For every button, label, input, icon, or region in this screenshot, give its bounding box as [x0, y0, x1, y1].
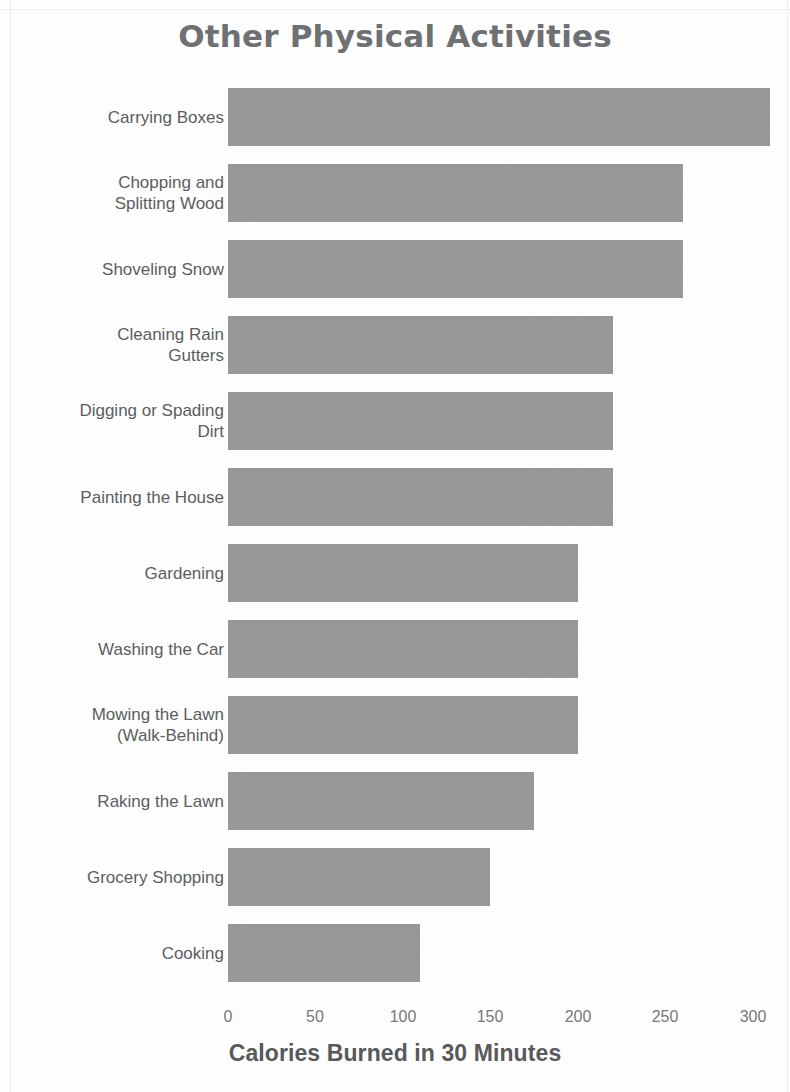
bar-category-label: Carrying Boxes — [14, 107, 224, 128]
bar — [228, 240, 683, 298]
bar-row: Mowing the Lawn (Walk-Behind) — [0, 696, 790, 754]
bar-row: Carrying Boxes — [0, 88, 790, 146]
bar — [228, 924, 420, 982]
bar — [228, 772, 534, 830]
x-axis-tick-label: 200 — [548, 1008, 608, 1026]
bar-row: Raking the Lawn — [0, 772, 790, 830]
bar — [228, 620, 578, 678]
bar-row: Digging or Spading Dirt — [0, 392, 790, 450]
bar-category-label: Gardening — [14, 563, 224, 584]
bar-category-label: Raking the Lawn — [14, 791, 224, 812]
x-axis-tick-label: 250 — [635, 1008, 695, 1026]
bar — [228, 544, 578, 602]
bar — [228, 468, 613, 526]
bar-row: Cleaning Rain Gutters — [0, 316, 790, 374]
bar — [228, 848, 490, 906]
bar-row: Grocery Shopping — [0, 848, 790, 906]
bar — [228, 696, 578, 754]
x-axis-tick-label: 150 — [460, 1008, 520, 1026]
bar-category-label: Shoveling Snow — [14, 259, 224, 280]
bar-category-label: Painting the House — [14, 487, 224, 508]
bar-category-label: Digging or Spading Dirt — [14, 400, 224, 442]
bar — [228, 88, 770, 146]
bar-row: Washing the Car — [0, 620, 790, 678]
bar-category-label: Mowing the Lawn (Walk-Behind) — [14, 704, 224, 746]
bar — [228, 316, 613, 374]
plot-area: Carrying BoxesChopping and Splitting Woo… — [0, 0, 790, 1092]
bar-category-label: Washing the Car — [14, 639, 224, 660]
x-axis-tick-label: 50 — [285, 1008, 345, 1026]
bar — [228, 164, 683, 222]
bar-category-label: Cooking — [14, 943, 224, 964]
x-axis-tick-label: 300 — [723, 1008, 783, 1026]
x-axis-tick-labels: 050100150200250300 — [0, 1008, 790, 1032]
bar-category-label: Chopping and Splitting Wood — [14, 172, 224, 214]
x-axis-tick-label: 100 — [373, 1008, 433, 1026]
chart-figure: Other Physical Activities Carrying Boxes… — [0, 0, 790, 1092]
bar-row: Chopping and Splitting Wood — [0, 164, 790, 222]
bar-category-label: Cleaning Rain Gutters — [14, 324, 224, 366]
bar-category-label: Grocery Shopping — [14, 867, 224, 888]
x-axis-label: Calories Burned in 30 Minutes — [0, 1040, 790, 1067]
bar-row: Shoveling Snow — [0, 240, 790, 298]
x-axis-tick-label: 0 — [198, 1008, 258, 1026]
bar-row: Gardening — [0, 544, 790, 602]
bar-row: Cooking — [0, 924, 790, 982]
bar-row: Painting the House — [0, 468, 790, 526]
bar — [228, 392, 613, 450]
